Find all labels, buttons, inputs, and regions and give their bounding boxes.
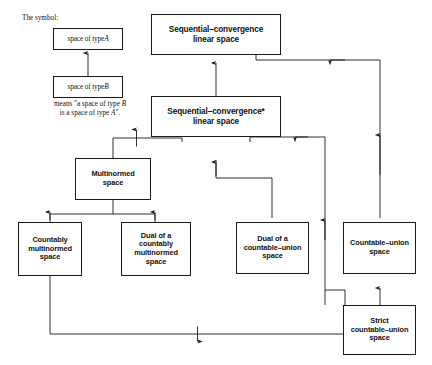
node-dual-of-a-countable-union-space[interactable]: Dual of a countable–union space <box>236 222 309 274</box>
node-line-1: Sequential–convergence <box>169 25 263 34</box>
node-line-3: space <box>369 333 389 342</box>
node-line-1: Countably <box>32 235 67 244</box>
node-line-2: multinormed <box>28 244 72 253</box>
node-line-2: countable–union <box>351 325 409 334</box>
node-line-2: linear space <box>193 35 239 44</box>
legend-caption-line2: is a space of type A". <box>60 109 120 117</box>
node-dual-of-a-countably-multinormed-space[interactable]: Dual of a countably multinormed space <box>121 222 191 276</box>
node-line-1: Multinormed <box>91 169 134 178</box>
node-line-1: Dual of a <box>257 234 287 243</box>
node-line-2: space <box>103 178 123 187</box>
node-line-2: countable–union <box>244 243 302 252</box>
node-countable-union-space[interactable]: Countable–union space <box>343 222 416 274</box>
legend-caption-line1: means "a space of type B <box>54 100 126 108</box>
node-line-2: countably <box>139 239 173 248</box>
node-line-1: Countable–union <box>350 238 409 247</box>
node-line-3: space <box>40 252 60 261</box>
node-sequential-convergence-star-linear-space[interactable]: Sequential–convergence* linear space <box>151 96 281 137</box>
node-sequential-convergence-linear-space[interactable]: Sequential–convergence linear space <box>151 14 281 55</box>
node-strict-countable-union-space[interactable]: Strict countable–union space <box>343 305 416 355</box>
node-line-2: space <box>369 247 389 256</box>
node-line-1: Dual of a <box>141 231 171 240</box>
node-line-3: multinormed <box>134 248 178 257</box>
legend-caption: means "a space of type B is a space of t… <box>42 100 138 118</box>
diagram-canvas: The symbol: space of type A space of typ… <box>0 0 432 365</box>
node-line-3: space <box>262 251 282 260</box>
node-line-2: linear space <box>193 117 239 126</box>
node-line-1: Sequential–convergence* <box>167 107 264 116</box>
node-multinormed-space[interactable]: Multinormed space <box>75 158 151 200</box>
legend-box-type-b: space of type B <box>53 76 123 98</box>
legend-title: The symbol: <box>22 14 58 22</box>
node-line-1: Strict <box>370 316 388 325</box>
node-countably-multinormed-space[interactable]: Countably multinormed space <box>18 222 82 276</box>
legend-box-type-a: space of type A <box>53 28 123 50</box>
node-line-4: space <box>146 257 166 266</box>
